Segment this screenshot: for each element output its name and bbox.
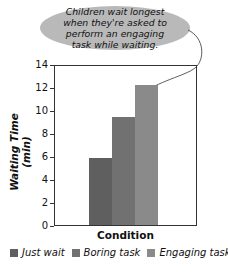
y-tick: 12: [44, 88, 54, 89]
legend-swatch: [10, 249, 18, 257]
y-tick: 2: [44, 203, 54, 204]
y-axis-label: Waiting Time (min): [8, 102, 32, 202]
y-tick: 10: [44, 111, 54, 112]
tick-label: 12: [28, 82, 48, 93]
tick-mark: [50, 226, 54, 227]
tick-label: 14: [28, 59, 48, 70]
legend-swatch: [147, 249, 155, 257]
bar-just-wait: [89, 158, 112, 225]
y-tick: 0: [44, 226, 54, 227]
y-tick: 8: [44, 134, 54, 135]
x-axis-label: Condition: [54, 229, 197, 241]
legend: Just wait Boring task Engaging task: [10, 247, 228, 258]
legend-swatch: [72, 249, 80, 257]
plot-area: [54, 65, 197, 226]
bar-boring-task: [112, 117, 135, 225]
legend-item-just-wait: Just wait: [10, 247, 65, 258]
tick-label: 0: [28, 220, 48, 231]
legend-label: Just wait: [22, 247, 65, 258]
y-tick: 4: [44, 180, 54, 181]
legend-label: Engaging task: [159, 247, 228, 258]
y-tick: 6: [44, 157, 54, 158]
legend-item-boring-task: Boring task: [72, 247, 141, 258]
bar-engaging-task: [135, 85, 158, 225]
legend-item-engaging-task: Engaging task: [147, 247, 228, 258]
legend-label: Boring task: [84, 247, 141, 258]
y-tick: 14: [44, 65, 54, 66]
